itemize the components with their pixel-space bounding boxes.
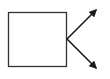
arrow-lower-right [67,39,96,68]
diagram-canvas [0,0,110,79]
box-node [9,13,67,67]
arrow-upper-right [67,10,96,39]
